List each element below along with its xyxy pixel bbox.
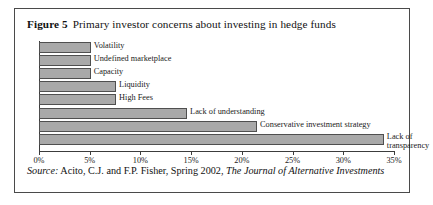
bar (39, 81, 116, 92)
axis-tick-label: 15% (184, 156, 199, 165)
figure-title-text: Primary investor concerns about investin… (73, 18, 336, 30)
axis-tick-label: 35% (386, 156, 401, 165)
source-prefix: Source: (27, 165, 58, 176)
bar (39, 68, 91, 79)
source-citation: Source: Acito, C.J. and F.P. Fisher, Spr… (27, 165, 384, 176)
axis-tick (242, 151, 243, 155)
bar (39, 94, 116, 105)
axis-tick-label: 30% (336, 156, 351, 165)
bar (39, 108, 187, 119)
axis-tick (191, 151, 192, 155)
axis-tick (140, 151, 141, 155)
bar-row: Liquidity (39, 81, 116, 92)
bar-row: High Fees (39, 94, 116, 105)
bar (39, 121, 257, 132)
figure-title: Figure 5Primary investor concerns about … (27, 18, 336, 30)
bar-label: Lack of transparency (387, 132, 433, 150)
bar-label: High Fees (119, 93, 153, 102)
bar-row: Undefined marketplace (39, 55, 91, 66)
x-axis-line (39, 151, 394, 152)
axis-tick-label: 5% (84, 156, 95, 165)
bar-label: Lack of understanding (190, 107, 265, 116)
axis-tick-label: 25% (285, 156, 300, 165)
bar-row: Conservative investment strategy (39, 121, 257, 132)
axis-tick-label: 0% (33, 156, 44, 165)
axis-tick (394, 151, 395, 155)
bar-chart-plot: VolatilityUndefined marketplaceCapacityL… (15, 39, 409, 157)
bar (39, 134, 384, 145)
bar-row: Lack of transparency (39, 134, 384, 145)
figure-number: Figure 5 (27, 18, 68, 30)
bar-row: Volatility (39, 42, 91, 53)
axis-tick-label: 20% (234, 156, 249, 165)
bar-label: Capacity (94, 67, 124, 76)
figure-container: Figure 5Primary investor concerns about … (14, 8, 410, 193)
source-journal: The Journal of Alternative Investments (226, 165, 384, 176)
bar (39, 42, 91, 53)
axis-tick (39, 151, 40, 155)
axis-tick (90, 151, 91, 155)
bar-label: Liquidity (119, 80, 150, 89)
bar-row: Capacity (39, 68, 91, 79)
bar (39, 55, 91, 66)
axis-tick (343, 151, 344, 155)
bar-label: Volatility (94, 41, 125, 50)
bar-row: Lack of understanding (39, 108, 187, 119)
axis-tick (293, 151, 294, 155)
bar-label: Undefined marketplace (94, 54, 172, 63)
source-authors: Acito, C.J. and F.P. Fisher, Spring 2002… (60, 165, 223, 176)
axis-tick-label: 10% (133, 156, 148, 165)
bar-label: Conservative investment strategy (260, 120, 371, 129)
